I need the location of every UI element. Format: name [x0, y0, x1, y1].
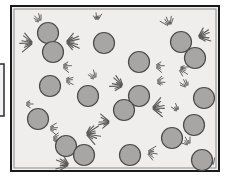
particle-circle — [114, 100, 135, 121]
particle-circle — [78, 86, 99, 107]
left-edge-tab — [0, 64, 4, 116]
particle-circle — [43, 42, 64, 63]
burst-ray — [60, 165, 67, 166]
particle-circle — [162, 128, 183, 149]
particle-circle — [38, 23, 59, 44]
figure-container: Particle dispersion field diagram Rectan… — [0, 0, 230, 186]
burst-ray — [87, 133, 95, 134]
particle-circle — [28, 109, 49, 130]
particle-circle — [120, 145, 141, 166]
particle-circle — [74, 145, 95, 166]
burst-ray — [96, 13, 97, 19]
particle-circle — [185, 48, 206, 69]
particle-circle — [40, 76, 61, 97]
burst-ray — [189, 140, 190, 143]
particle-circle — [194, 88, 215, 109]
burst-ray — [54, 138, 57, 139]
particle-circle — [94, 33, 115, 54]
left-edge-tab-group — [0, 64, 4, 116]
burst-ray — [158, 81, 161, 82]
particle-circle — [129, 52, 150, 73]
burst-ray — [181, 68, 186, 69]
particle-circle — [192, 150, 213, 171]
particle-circle — [184, 115, 205, 136]
particle-field-figure — [0, 0, 230, 186]
burst-ray — [27, 105, 29, 106]
